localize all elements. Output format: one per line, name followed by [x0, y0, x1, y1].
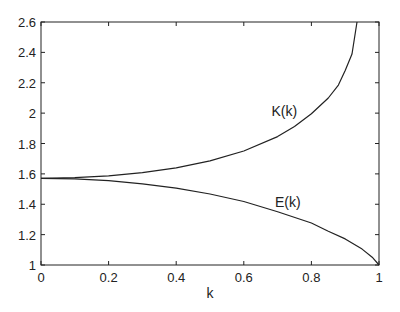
x-axis-label: k: [207, 285, 215, 301]
y-tick-label: 2.6: [18, 15, 36, 30]
curve-label-kk: K(k): [272, 103, 298, 119]
x-tick-label: 0: [37, 270, 44, 285]
x-tick-label: 0.4: [167, 270, 185, 285]
elliptic-integrals-chart: 00.20.40.60.81 11.21.41.61.822.22.42.6 K…: [0, 0, 400, 312]
x-axis-ticks: 00.20.40.60.81: [37, 22, 382, 285]
y-axis-ticks: 11.21.41.61.822.22.42.6: [18, 15, 379, 273]
y-tick-label: 1.8: [18, 137, 36, 152]
x-tick-label: 0.8: [302, 270, 320, 285]
y-tick-label: 1.6: [18, 167, 36, 182]
curve-ek: [41, 178, 379, 265]
y-tick-label: 2.2: [18, 76, 36, 91]
curves: K(k)E(k): [41, 22, 379, 265]
plot-frame: [41, 22, 379, 265]
y-tick-label: 2: [29, 106, 36, 121]
x-tick-label: 0.6: [235, 270, 253, 285]
y-tick-label: 1.2: [18, 228, 36, 243]
x-tick-label: 0.2: [100, 270, 118, 285]
curve-label-ek: E(k): [275, 194, 301, 210]
y-tick-label: 2.4: [18, 45, 36, 60]
curve-kk: [41, 22, 357, 178]
y-tick-label: 1: [29, 258, 36, 273]
y-tick-label: 1.4: [18, 197, 36, 212]
x-tick-label: 1: [375, 270, 382, 285]
